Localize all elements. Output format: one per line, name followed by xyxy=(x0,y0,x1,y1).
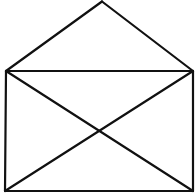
rect-left-line xyxy=(5,71,6,191)
house-envelope-diagram xyxy=(0,0,195,193)
background xyxy=(0,0,195,193)
